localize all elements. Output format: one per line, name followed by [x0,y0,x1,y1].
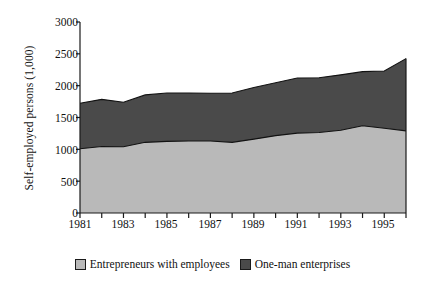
y-axis-title: Self-employed persons (1,000) [18,22,40,214]
x-tick-1991: 1991 [276,218,316,230]
chart-legend: Entrepreneurs with employees One-man ent… [0,258,425,270]
x-tick-1981: 1981 [60,218,100,230]
legend-item-entrepreneurs: Entrepreneurs with employees [75,258,230,270]
chart-figure: Self-employed persons (1,000) 3000 2500 … [0,0,425,293]
legend-label-one-man: One-man enterprises [255,258,350,270]
legend-label-entrepreneurs: Entrepreneurs with employees [90,258,230,270]
y-axis-tick-labels: 3000 2500 2000 1500 1000 500 0 [38,0,78,293]
y-axis-title-text: Self-employed persons (1,000) [23,45,35,190]
x-tick-1995: 1995 [363,218,403,230]
y-tick-500: 500 [44,177,78,188]
y-tick-1000: 1000 [44,145,78,156]
x-tick-1989: 1989 [233,218,273,230]
y-tick-3000: 3000 [44,17,78,28]
legend-swatch-dark [240,259,251,270]
legend-swatch-light [75,259,86,270]
x-axis-tick-labels: 1981 1983 1985 1987 1989 1991 1993 1995 [0,218,425,238]
y-tick-2500: 2500 [44,49,78,60]
x-tick-1987: 1987 [190,218,230,230]
x-tick-1983: 1983 [103,218,143,230]
x-tick-1985: 1985 [146,218,186,230]
legend-item-one-man: One-man enterprises [240,258,350,270]
y-tick-2000: 2000 [44,81,78,92]
x-tick-1993: 1993 [320,218,360,230]
y-tick-1500: 1500 [44,113,78,124]
